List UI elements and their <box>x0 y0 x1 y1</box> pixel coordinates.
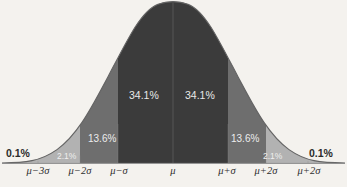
x-tick-label-minus-2-sigma: μ−2σ <box>69 166 92 177</box>
x-tick-label-plus-2-sigma: μ+2σ <box>255 166 278 177</box>
annotation-right-tail-pct: 2.1% <box>263 152 282 161</box>
x-tick-label-minus-1-sigma: μ−σ <box>110 166 128 177</box>
annotation-right-core-pct: 34.1% <box>185 90 215 101</box>
x-tick-label-plus-3-sigma: μ+2σ <box>298 166 321 177</box>
annotation-left-outer-pct: 0.1% <box>6 148 30 159</box>
annotation-left-core-pct: 34.1% <box>129 90 159 101</box>
annotation-right-mid-pct: 13.6% <box>231 134 259 144</box>
annotation-right-outer-pct: 0.1% <box>309 148 333 159</box>
annotation-left-tail-pct: 2.1% <box>57 152 76 161</box>
normal-distribution-chart: 0.1% 2.1% 13.6% 34.1% 34.1% 13.6% 2.1% 0… <box>0 0 347 187</box>
x-tick-label-plus-1-sigma: μ+σ <box>218 166 236 177</box>
sigma-band-group <box>0 0 347 187</box>
annotation-left-mid-pct: 13.6% <box>88 134 116 144</box>
x-tick-label-mean: μ <box>170 166 175 177</box>
x-tick-label-minus-3-sigma: μ−3σ <box>27 166 50 177</box>
bell-curve-plot <box>0 0 347 187</box>
